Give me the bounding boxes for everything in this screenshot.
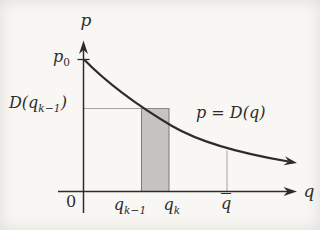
curve-equation-label: p = D(q) (196, 104, 265, 122)
diagram-svg (0, 0, 320, 230)
qk-label: qk (164, 196, 181, 214)
qbar-label: q (221, 195, 231, 213)
origin-label: 0 (66, 193, 76, 211)
p-axis-label: p (81, 11, 92, 30)
qk1-label: qk−1 (114, 196, 147, 214)
p0-label: p0 (53, 48, 70, 66)
figure-canvas: p p0 D(qk−1) p = D(q) 0 qk−1 qk q q (0, 0, 320, 230)
q-axis-label: q (304, 182, 315, 201)
dq-label: D(qk−1) (9, 94, 67, 112)
